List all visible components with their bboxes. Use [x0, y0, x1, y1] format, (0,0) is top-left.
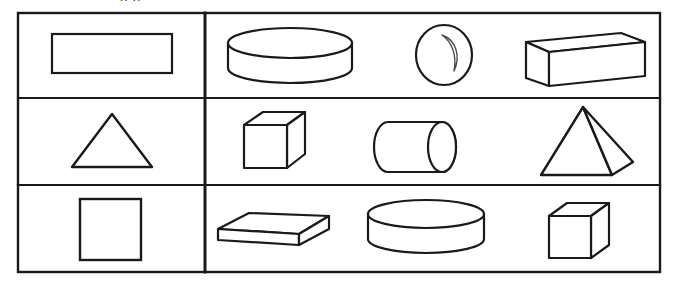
shape-cylinder-disk-row3[interactable] [368, 200, 484, 253]
shape-sorting-table: p p [0, 0, 676, 282]
rectangle-outline [52, 34, 172, 73]
cylinder-top-ellipse-row3 [368, 200, 484, 228]
cylinder-top-ellipse [228, 28, 352, 58]
worksheet-canvas [0, 0, 676, 282]
cube-front-face [244, 125, 287, 168]
cylinder-end-ellipse [428, 122, 456, 172]
shape-rectangular-prism[interactable] [526, 33, 645, 86]
shape-cylinder-disk-row1[interactable] [228, 28, 352, 83]
sphere-outline [416, 25, 472, 85]
shape-cylinder-horizontal[interactable] [374, 122, 456, 172]
cube-front-face-row3 [549, 216, 591, 258]
shape-cube-row2[interactable] [244, 112, 305, 168]
square-outline [80, 199, 141, 260]
clipped-header-text: p p [120, 0, 141, 1]
shape-rectangle-2d[interactable] [52, 34, 172, 73]
shape-cube-row3[interactable] [549, 203, 609, 258]
shape-sphere[interactable] [416, 25, 472, 85]
shape-square-2d[interactable] [80, 199, 141, 260]
